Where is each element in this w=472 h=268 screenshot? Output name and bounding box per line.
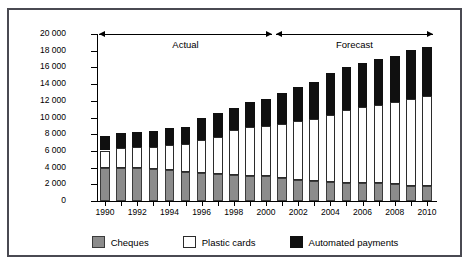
x-tick-mark	[137, 202, 138, 206]
bar-segment-plastic-cards	[374, 105, 384, 184]
bar-segment-plastic-cards	[229, 130, 239, 174]
arrow-head-left-icon	[276, 31, 282, 37]
bar-2008	[390, 34, 400, 201]
bar-segment-plastic-cards	[406, 99, 416, 185]
bar-1992	[132, 34, 142, 201]
bar-segment-automated-payments	[245, 102, 255, 126]
period-arrow-actual	[99, 34, 272, 35]
bar-segment-automated-payments	[165, 128, 175, 145]
bar-segment-automated-payments	[213, 113, 223, 137]
bar-1996	[197, 34, 207, 201]
legend-label-cheques: Cheques	[111, 237, 149, 248]
bar-2010	[422, 34, 432, 201]
bar-segment-plastic-cards	[181, 144, 191, 172]
bar-segment-cheques	[213, 174, 223, 201]
arrow-head-right-icon	[266, 31, 272, 37]
x-tick-label: 2004	[316, 207, 344, 217]
x-tick-mark	[298, 202, 299, 206]
bar-segment-plastic-cards	[261, 126, 271, 176]
bar-segment-cheques	[293, 180, 303, 201]
bar-segment-plastic-cards	[277, 124, 287, 178]
bar-segment-cheques	[342, 183, 352, 201]
bar-segment-plastic-cards	[422, 96, 432, 186]
legend-item-plastic-cards[interactable]: Plastic cards	[183, 236, 256, 248]
x-tick-mark	[153, 202, 154, 206]
bar-segment-automated-payments	[309, 82, 319, 119]
bar-1991	[116, 34, 126, 201]
x-tick-label: 1996	[188, 207, 216, 217]
bar-1990	[100, 34, 110, 201]
plastic-cards-swatch-icon	[183, 236, 196, 248]
bar-segment-automated-payments	[374, 59, 384, 104]
x-tick-mark	[346, 202, 347, 206]
chart-frame: Volumes millions 02 0004 0006 0008 00010…	[7, 8, 462, 257]
bar-segment-plastic-cards	[197, 140, 207, 173]
bar-segment-plastic-cards	[390, 102, 400, 184]
bar-segment-cheques	[261, 176, 271, 201]
period-label-actual: Actual	[99, 39, 272, 50]
bar-segment-cheques	[100, 168, 110, 201]
y-tick-label: 6 000	[45, 146, 66, 155]
bar-segment-automated-payments	[229, 108, 239, 130]
bar-segment-plastic-cards	[245, 127, 255, 176]
chart-figure: Volumes millions 02 0004 0006 0008 00010…	[0, 0, 472, 268]
bar-2006	[358, 34, 368, 201]
bar-1995	[181, 34, 191, 201]
bar-segment-automated-payments	[358, 63, 368, 107]
x-tick-mark	[234, 202, 235, 206]
bar-segment-automated-payments	[390, 56, 400, 103]
x-tick-label: 1994	[155, 207, 183, 217]
bar-segment-plastic-cards	[213, 137, 223, 174]
bar-2000	[261, 34, 271, 201]
x-tick-mark	[105, 202, 106, 206]
period-label-forecast: Forecast	[276, 39, 433, 50]
bar-2005	[342, 34, 352, 201]
y-tick-label: 20 000	[40, 29, 66, 38]
legend-label-automated-payments: Automated payments	[309, 237, 399, 248]
period-arrow-forecast	[276, 34, 433, 35]
bar-segment-cheques	[374, 183, 384, 201]
arrow-head-right-icon	[427, 31, 433, 37]
automated-payments-swatch-icon	[290, 236, 303, 248]
bar-segment-plastic-cards	[149, 147, 159, 170]
bar-segment-automated-payments	[406, 50, 416, 99]
bar-segment-cheques	[149, 169, 159, 201]
bar-segment-cheques	[132, 168, 142, 201]
bar-2004	[326, 34, 336, 201]
bar-segment-plastic-cards	[309, 119, 319, 181]
bar-segment-cheques	[245, 176, 255, 201]
x-tick-mark	[330, 202, 331, 206]
bar-segment-plastic-cards	[165, 145, 175, 170]
bar-2003	[309, 34, 319, 201]
bar-segment-automated-payments	[277, 93, 287, 124]
x-tick-mark	[266, 202, 267, 206]
x-tick-mark	[314, 202, 315, 206]
y-tick-label: 16 000	[40, 62, 66, 71]
y-tick-label: 0	[61, 196, 66, 205]
x-tick-label: 2008	[381, 207, 409, 217]
x-tick-label: 2010	[413, 207, 441, 217]
chart-legend: Cheques Plastic cards Automated payments	[9, 236, 472, 248]
bar-segment-plastic-cards	[116, 148, 126, 168]
x-tick-mark	[186, 202, 187, 206]
bar-segment-automated-payments	[149, 131, 159, 147]
x-tick-label: 2002	[284, 207, 312, 217]
bar-segment-cheques	[309, 181, 319, 201]
legend-item-automated-payments[interactable]: Automated payments	[290, 236, 399, 248]
x-tick-mark	[169, 202, 170, 206]
x-tick-mark	[121, 202, 122, 206]
y-tick-label: 12 000	[40, 96, 66, 105]
bar-segment-automated-payments	[342, 67, 352, 110]
x-tick-mark	[363, 202, 364, 206]
legend-item-cheques[interactable]: Cheques	[92, 236, 149, 248]
bar-segment-cheques	[116, 168, 126, 201]
x-tick-mark	[427, 202, 428, 206]
bar-segment-plastic-cards	[132, 147, 142, 168]
x-tick-mark	[250, 202, 251, 206]
x-tick-mark	[411, 202, 412, 206]
x-tick-label: 1992	[123, 207, 151, 217]
y-tick-mark	[91, 201, 97, 202]
bar-segment-automated-payments	[132, 132, 142, 147]
bar-segment-automated-payments	[100, 136, 110, 151]
bar-segment-cheques	[326, 182, 336, 201]
